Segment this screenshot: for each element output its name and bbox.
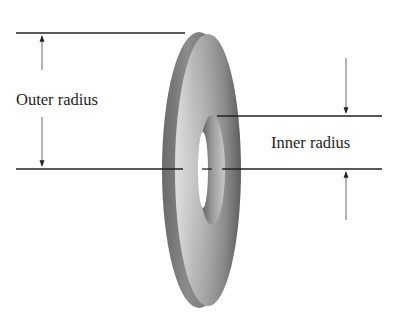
washer-diagram: Outer radius Inner radius (0, 0, 401, 317)
inner-radius-label: Inner radius (271, 135, 350, 152)
outer-radius-label: Outer radius (16, 92, 98, 109)
washer-disc (162, 32, 241, 308)
washer-illustration (0, 0, 401, 317)
hole-opening (198, 132, 208, 208)
